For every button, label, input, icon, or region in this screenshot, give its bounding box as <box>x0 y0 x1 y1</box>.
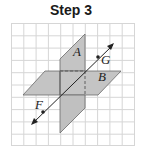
arrow-head-g-icon <box>107 43 114 50</box>
point-g <box>96 55 100 59</box>
label-plane-b: B <box>98 69 106 84</box>
label-point-f: F <box>34 97 44 112</box>
label-plane-a: A <box>72 44 81 59</box>
planes-diagram: A B G F <box>0 0 142 154</box>
label-point-g: G <box>101 52 111 67</box>
plane-b <box>23 71 121 95</box>
